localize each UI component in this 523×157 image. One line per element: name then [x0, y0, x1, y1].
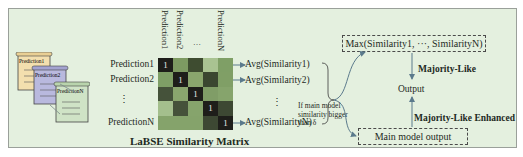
arrow-to-max [334, 52, 365, 100]
brace [322, 63, 334, 124]
arrow-to-main-model [334, 100, 356, 136]
scroll-connector-1 [60, 84, 76, 93]
connectors [0, 0, 523, 157]
scroll-connector-2 [50, 105, 60, 114]
